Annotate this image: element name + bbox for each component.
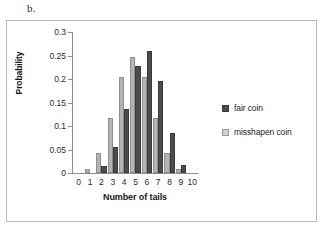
x-tick-label: 6 <box>144 177 149 187</box>
bar-group <box>96 32 107 173</box>
y-tick-label: 0 <box>61 168 66 178</box>
y-tick-mark <box>68 56 72 57</box>
bar-fair-coin <box>124 109 129 173</box>
x-axis-line <box>72 173 198 174</box>
bar-group <box>153 32 164 173</box>
legend-swatch-icon <box>222 105 229 112</box>
x-tick-label: 3 <box>110 177 115 187</box>
legend-swatch-icon <box>222 129 229 136</box>
bar-group <box>175 32 186 173</box>
y-tick-mark <box>68 150 72 151</box>
y-tick-mark <box>68 32 72 33</box>
bar-group <box>118 32 129 173</box>
chart-legend: fair coinmisshapen coin <box>222 103 292 151</box>
bar-group <box>130 32 141 173</box>
x-axis-ticks: 012345678910 <box>73 177 198 191</box>
bar-fair-coin <box>113 147 118 173</box>
bar-group <box>84 32 95 173</box>
x-tick-label: 8 <box>167 177 172 187</box>
legend-label: fair coin <box>234 103 263 113</box>
x-tick-label: 0 <box>76 177 81 187</box>
y-tick-mark <box>68 79 72 80</box>
y-tick-label: 0.05 <box>49 145 66 155</box>
bar-fair-coin <box>170 133 175 173</box>
plot-area: 00.050.10.150.20.250.3 012345678910 Numb… <box>72 32 198 174</box>
bar-group <box>164 32 175 173</box>
bar-misshapen-coin <box>85 169 90 173</box>
bar-fair-coin <box>101 166 106 173</box>
x-axis-title: Number of tails <box>70 192 200 202</box>
x-tick-label: 7 <box>156 177 161 187</box>
x-tick-label: 5 <box>133 177 138 187</box>
bar-fair-coin <box>135 66 140 173</box>
y-tick-label: 0.2 <box>54 74 66 84</box>
x-tick-label: 2 <box>99 177 104 187</box>
x-tick-label: 10 <box>188 177 197 187</box>
bar-fair-coin <box>147 51 152 173</box>
panel-letter: b. <box>27 2 36 14</box>
y-tick-label: 0.15 <box>49 98 66 108</box>
legend-label: misshapen coin <box>234 127 292 137</box>
legend-item[interactable]: misshapen coin <box>222 127 292 137</box>
x-tick-label: 9 <box>179 177 184 187</box>
bar-fair-coin <box>158 81 163 173</box>
x-tick-label: 1 <box>88 177 93 187</box>
bar-series-group <box>73 32 198 173</box>
bar-fair-coin <box>181 165 186 173</box>
y-axis-title: Probability <box>14 30 24 116</box>
y-tick-label: 0.3 <box>54 27 66 37</box>
x-tick-label: 4 <box>122 177 127 187</box>
y-tick-mark <box>68 126 72 127</box>
bar-group <box>187 32 198 173</box>
y-tick-mark <box>68 103 72 104</box>
y-tick-label: 0.25 <box>49 51 66 61</box>
bar-group <box>141 32 152 173</box>
bar-group <box>107 32 118 173</box>
y-tick-mark <box>68 173 72 174</box>
legend-item[interactable]: fair coin <box>222 103 292 113</box>
y-tick-label: 0.1 <box>54 121 66 131</box>
bar-group <box>73 32 84 173</box>
figure-panel-b: b. Probability 00.050.10.150.20.250.3 01… <box>0 0 325 234</box>
